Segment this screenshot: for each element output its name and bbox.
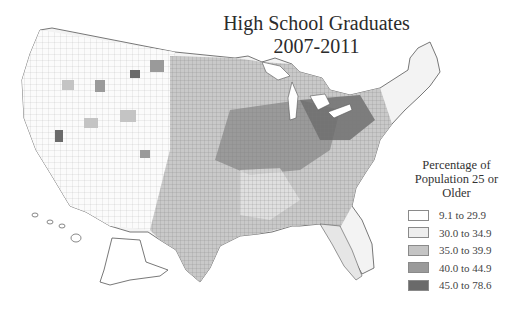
legend: Percentage of Population 25 or Older 9.1…	[408, 158, 513, 295]
legend-item: 40.0 to 44.9	[408, 260, 513, 276]
map-title: High School Graduates	[60, 12, 513, 35]
legend-title-line1: Percentage of	[400, 158, 513, 172]
legend-swatch	[408, 245, 429, 256]
alaska-shape	[100, 238, 168, 285]
legend-label: 40.0 to 44.9	[439, 262, 492, 274]
legend-swatch	[408, 280, 429, 291]
legend-label: 30.0 to 34.9	[439, 227, 492, 239]
legend-label: 9.1 to 29.9	[439, 209, 486, 221]
legend-label: 35.0 to 39.9	[439, 244, 492, 256]
legend-swatch	[408, 227, 429, 238]
legend-swatch	[408, 210, 429, 221]
map-subtitle-years: 2007-2011	[60, 35, 513, 58]
legend-swatch	[408, 262, 429, 273]
legend-label: 45.0 to 78.6	[439, 279, 492, 291]
hawaii-shape	[32, 213, 81, 242]
legend-item: 9.1 to 29.9	[408, 207, 513, 223]
legend-item: 30.0 to 34.9	[408, 225, 513, 241]
legend-item: 35.0 to 39.9	[408, 242, 513, 258]
legend-item: 45.0 to 78.6	[408, 277, 513, 293]
legend-title-line2: Population 25 or Older	[400, 172, 513, 200]
